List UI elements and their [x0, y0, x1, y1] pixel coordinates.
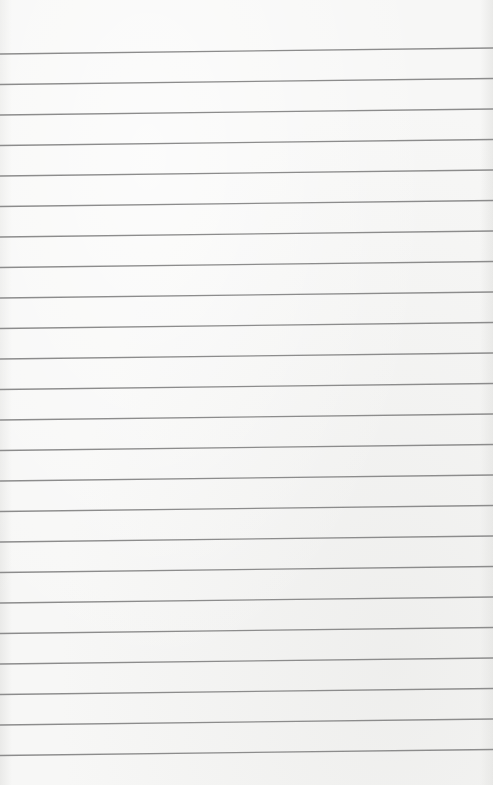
ruled-line [0, 719, 493, 725]
ruled-line [0, 384, 493, 390]
ruled-line [0, 231, 493, 237]
ruled-line [0, 323, 493, 329]
ruled-line [0, 48, 493, 54]
ruled-line [0, 445, 493, 451]
ruled-line [0, 689, 493, 695]
ruled-line [0, 536, 493, 542]
ruled-line [0, 750, 493, 756]
lined-paper-sheet [0, 0, 493, 785]
ruled-line [0, 628, 493, 634]
ruled-lines [0, 0, 493, 785]
ruled-line [0, 475, 493, 481]
ruled-line [0, 170, 493, 176]
ruled-line [0, 292, 493, 298]
ruled-line [0, 140, 493, 146]
ruled-line [0, 658, 493, 664]
ruled-line [0, 262, 493, 268]
ruled-line [0, 414, 493, 420]
ruled-line [0, 597, 493, 603]
ruled-line [0, 79, 493, 85]
ruled-line [0, 353, 493, 359]
ruled-line [0, 109, 493, 115]
ruled-line [0, 567, 493, 573]
ruled-line [0, 506, 493, 512]
ruled-line [0, 201, 493, 207]
